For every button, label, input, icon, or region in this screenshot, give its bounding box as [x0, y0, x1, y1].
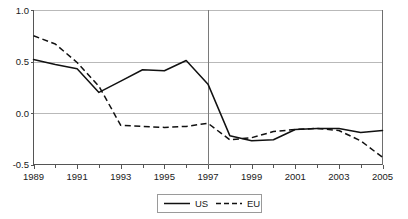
y-tick-label: 1.0	[16, 5, 29, 16]
x-tick-label: 1989	[23, 171, 44, 182]
x-axis-tick-marks	[35, 165, 384, 169]
x-tick-label: 2001	[285, 171, 306, 182]
line-chart: 1.00.50.0-0.5 19891991199319951997199920…	[0, 0, 408, 219]
x-tick-label: 2003	[328, 171, 349, 182]
legend-label-us: US	[195, 198, 208, 209]
x-tick-label: 1999	[241, 171, 262, 182]
y-tick-label: 0.5	[16, 56, 29, 67]
x-axis-tick-labels: 198919911993199519971999200120032005	[23, 171, 393, 182]
chart-canvas: 1.00.50.0-0.5 19891991199319951997199920…	[0, 0, 408, 219]
y-tick-label: 0.0	[16, 108, 29, 119]
legend: US EU	[158, 195, 262, 213]
x-tick-label: 2005	[372, 171, 393, 182]
y-tick-label: -0.5	[13, 159, 29, 170]
legend-label-eu: EU	[247, 198, 260, 209]
x-tick-label: 1993	[110, 171, 131, 182]
y-axis-tick-labels: 1.00.50.0-0.5	[13, 5, 29, 171]
x-tick-label: 1995	[154, 171, 175, 182]
x-tick-label: 1997	[197, 171, 218, 182]
x-tick-label: 1991	[67, 171, 88, 182]
